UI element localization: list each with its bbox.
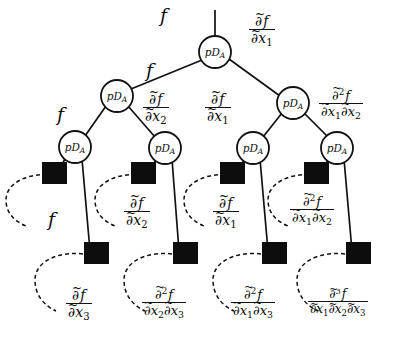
node-label-sub: A (169, 147, 176, 156)
tree-node-root[interactable]: pDA (199, 36, 231, 68)
leaf-label-s3: ∂~f ∂~x1 (213, 196, 239, 230)
tree-node-n4[interactable]: pDA (149, 132, 181, 164)
edge-n6-to-s8 (344, 159, 352, 251)
node-label-main: pD (243, 142, 259, 154)
leaf-square (220, 162, 245, 184)
edge-n1-to-n3 (85, 106, 106, 136)
leaf-square (84, 242, 109, 264)
tree-node-n2[interactable]: pDA (277, 87, 309, 119)
leaf-square (346, 242, 371, 264)
node-label-main: pD (327, 142, 343, 154)
node-label-sub: A (297, 102, 304, 111)
leaf-label-s2: ∂~f ∂~x2 (124, 196, 150, 230)
tree-node-n6[interactable]: pDA (321, 132, 353, 164)
edge-root-to-n2 (229, 59, 280, 96)
edge-root-to-n1 (131, 60, 202, 89)
leaf-label-s7: ∂~2f ∂~x1∂~x3 (231, 287, 275, 319)
node-label-main: pD (107, 90, 123, 102)
edge-n5-to-s7 (260, 159, 268, 251)
edge-label-n3-left-leaf: f (48, 210, 55, 229)
node-label-sub: A (257, 147, 264, 156)
node-label-main: pD (65, 141, 81, 153)
node-label-sub: A (219, 51, 226, 60)
derivative-tree-diagram: pDA pDA pDA pDA pDA (0, 0, 399, 353)
leaf-label-s5: ∂~f ∂~x3 (66, 288, 92, 322)
node-label-sub: A (341, 147, 348, 156)
edge-label-n2-right: ∂~2f ∂~x1∂~x2 (319, 88, 363, 120)
node-label-sub: A (79, 146, 86, 155)
edge-n4-to-s6 (172, 159, 179, 251)
edge-label-n0-left: f (146, 61, 153, 80)
leaf-square (131, 162, 156, 184)
node-label-sub: A (121, 95, 128, 104)
edge-label-n1-right: ∂~f ∂~x2 (143, 92, 169, 126)
tree-node-n5[interactable]: pDA (237, 132, 269, 164)
tree-node-n1[interactable]: pDA (101, 80, 133, 112)
node-label-main: pD (283, 97, 299, 109)
leaf-square (304, 162, 329, 184)
leaf-label-s4: ∂~2f ∂~x1∂~x2 (290, 194, 334, 226)
edge-n2-to-n5 (263, 113, 282, 137)
node-label-main: pD (155, 142, 171, 154)
edge-label-n2-left: ∂~f ∂~x1 (205, 92, 231, 126)
leaf-square (262, 242, 287, 264)
edge-label-root-right: ∂~f ∂~x1 (249, 14, 275, 48)
leaf-square (42, 162, 67, 184)
leaf-square (173, 242, 198, 264)
node-label-main: pD (205, 46, 221, 58)
tree-node-n3[interactable]: pDA (59, 131, 91, 163)
edge-n3-to-s5 (82, 159, 90, 251)
leaf-label-s6: ∂~2f ∂~x2∂~x3 (142, 287, 186, 319)
edge-label-root-in: f (160, 6, 167, 25)
leaf-label-s8: ∂~3f ∂~x1∂~x2∂~x3 (308, 287, 368, 318)
edge-label-n1-left: f (57, 105, 64, 124)
